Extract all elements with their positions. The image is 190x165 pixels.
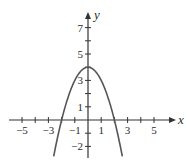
axes [9,12,176,158]
y-tick-label: 5 [78,48,84,60]
y-axis-label: y [92,7,100,22]
y-tick-label: 1 [78,101,84,113]
x-tick-label: 3 [125,124,131,136]
x-tick-label: −3 [43,124,55,136]
parabola-chart: −5−3−11357531−2 x y [0,0,190,165]
x-tick-label: −1 [69,124,81,136]
x-axis-label: x [177,112,184,127]
x-axis-arrow-icon [169,117,176,123]
x-tick-label: 1 [98,124,104,136]
y-axis-arrow-icon [85,12,91,19]
y-tick-label: 7 [78,22,84,34]
x-tick-label: −5 [16,124,28,136]
y-tick-label: −2 [71,140,83,152]
x-tick-label: 5 [151,124,157,136]
y-tick-label: 3 [78,74,84,86]
